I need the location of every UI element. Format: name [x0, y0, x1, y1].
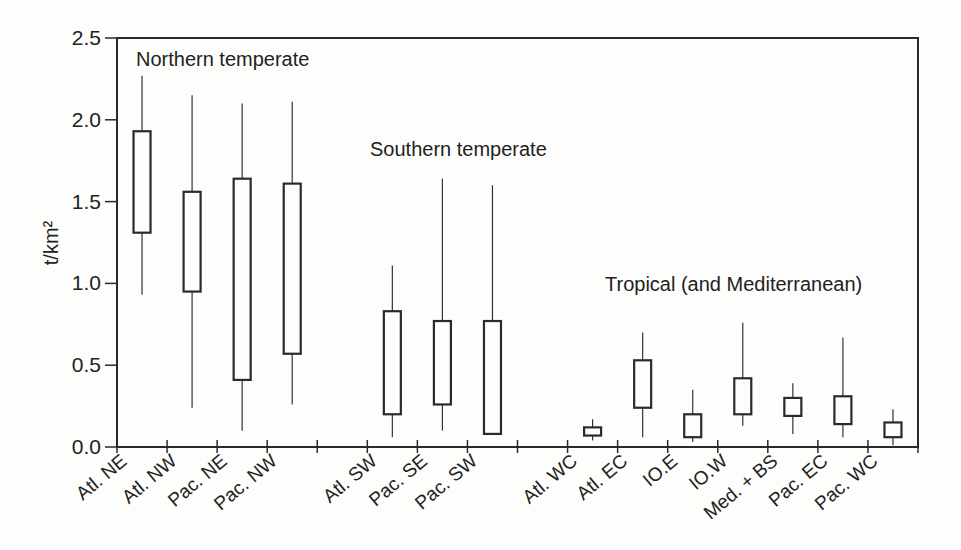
chart-canvas: 0.00.51.01.52.02.5 Atl. NEAtl. NWPac. NE…: [0, 0, 961, 550]
box-med-bs: [784, 383, 801, 434]
box-io-w: [734, 323, 751, 426]
y-tick-label: 2.0: [72, 108, 101, 131]
iqr-box: [734, 378, 751, 414]
boxplot-chart: 0.00.51.01.52.02.5 Atl. NEAtl. NWPac. NE…: [0, 0, 961, 550]
iqr-box: [384, 311, 401, 414]
x-axis: Atl. NEAtl. NWPac. NEPac. NWAtl. SWPac. …: [72, 440, 918, 523]
region-label: Northern temperate: [136, 48, 309, 70]
iqr-box: [234, 179, 251, 380]
y-axis-title: t/km²: [40, 220, 62, 265]
y-tick-label: 1.0: [72, 271, 101, 294]
region-label: Tropical (and Mediterranean): [605, 273, 862, 295]
box-pac-sw: [484, 185, 501, 434]
iqr-box: [884, 422, 901, 437]
box-atl-wc: [584, 419, 601, 440]
box-pac-ne: [234, 103, 251, 430]
x-category-label: IO.E: [639, 450, 682, 491]
box-pac-ec: [834, 337, 851, 437]
y-tick-label: 2.5: [72, 26, 101, 49]
y-axis: 0.00.51.01.52.02.5: [72, 26, 117, 458]
y-tick-label: 1.5: [72, 190, 101, 213]
iqr-box: [834, 396, 851, 424]
box-atl-sw: [384, 265, 401, 437]
iqr-box: [634, 360, 651, 407]
box-pac-se: [434, 179, 451, 431]
iqr-box: [684, 414, 701, 437]
iqr-box: [584, 427, 601, 435]
box-atl-ec: [634, 332, 651, 437]
box-atl-ne: [134, 76, 151, 295]
box-io-e: [684, 390, 701, 442]
box-atl-nw: [184, 95, 201, 407]
box-pac-nw: [284, 102, 301, 405]
iqr-box: [134, 131, 151, 232]
iqr-box: [184, 192, 201, 292]
iqr-box: [484, 321, 501, 434]
x-category-label: Atl. WC: [518, 450, 581, 507]
y-tick-label: 0.5: [72, 353, 101, 376]
region-label: Southern temperate: [370, 138, 547, 160]
iqr-box: [784, 398, 801, 416]
iqr-box: [284, 184, 301, 354]
box-pac-wc: [884, 409, 901, 445]
x-category-label: Atl. EC: [572, 450, 631, 504]
y-tick-label: 0.0: [72, 435, 101, 458]
box-series: [134, 76, 902, 446]
iqr-box: [434, 321, 451, 404]
